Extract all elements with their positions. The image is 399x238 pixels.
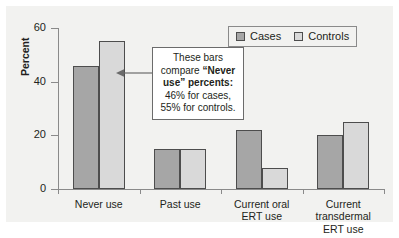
x-tick-origin bbox=[58, 189, 59, 194]
y-tick-label-60: 60 bbox=[34, 21, 51, 33]
never-use-callout: These bars compare “Never use” percents:… bbox=[152, 47, 244, 120]
bar-cases-3 bbox=[236, 130, 262, 189]
legend-label-cases: Cases bbox=[250, 30, 281, 42]
bar-cases-4 bbox=[317, 135, 343, 189]
y-tick-20: 20 bbox=[51, 135, 58, 136]
x-axis-label-2-line-1: Past use bbox=[140, 198, 222, 210]
x-axis-label-4-line-3: ERT use bbox=[303, 223, 385, 235]
y-tick-40: 40 bbox=[51, 82, 58, 83]
y-axis-title: Percent bbox=[19, 37, 31, 76]
bar-cases-1 bbox=[73, 66, 99, 189]
x-axis-label-3-line-1: Current oral bbox=[221, 198, 303, 210]
chart-legend: CasesControls bbox=[228, 26, 357, 47]
y-tick-label-0: 0 bbox=[40, 182, 51, 194]
bar-controls-4 bbox=[343, 122, 369, 189]
y-tick-label-20: 20 bbox=[34, 128, 51, 140]
legend-label-controls: Controls bbox=[308, 30, 349, 42]
y-tick-60: 60 bbox=[51, 28, 58, 29]
x-axis-label-3: Current oralERT use bbox=[221, 198, 303, 223]
x-tick-2 bbox=[221, 189, 222, 194]
bar-cases-2 bbox=[154, 149, 180, 189]
y-tick-label-40: 40 bbox=[34, 75, 51, 87]
x-axis-label-1: Never use bbox=[58, 198, 140, 210]
callout-text-part-3: 46% for cases, 55% for controls. bbox=[160, 90, 235, 114]
legend-swatch-controls bbox=[294, 32, 303, 41]
legend-entry-controls: Controls bbox=[294, 30, 349, 42]
x-axis-label-4-line-2: transdermal bbox=[303, 210, 385, 222]
x-tick-4 bbox=[384, 189, 385, 194]
x-tick-1 bbox=[140, 189, 141, 194]
x-axis-label-3-line-2: ERT use bbox=[221, 210, 303, 222]
legend-swatch-cases bbox=[236, 32, 245, 41]
x-axis-label-4: CurrenttransdermalERT use bbox=[303, 198, 385, 235]
chart-figure: Percent 0204060 Never usePast useCurrent… bbox=[6, 6, 393, 222]
x-axis-label-1-line-1: Never use bbox=[58, 198, 140, 210]
y-tick-0: 0 bbox=[51, 189, 58, 190]
bar-controls-1 bbox=[99, 41, 125, 189]
legend-entry-cases: Cases bbox=[236, 30, 281, 42]
bar-controls-3 bbox=[262, 168, 288, 189]
bar-group-1 bbox=[73, 28, 125, 189]
x-axis-label-2: Past use bbox=[140, 198, 222, 210]
bar-group-4 bbox=[317, 28, 369, 189]
x-tick-3 bbox=[303, 189, 304, 194]
x-axis-label-4-line-1: Current bbox=[303, 198, 385, 210]
bar-controls-2 bbox=[180, 149, 206, 189]
callout-arrow-icon bbox=[116, 66, 154, 80]
